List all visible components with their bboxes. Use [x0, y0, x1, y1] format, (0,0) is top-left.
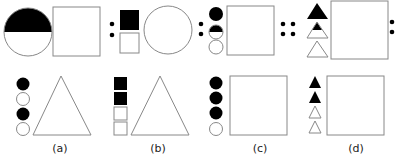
puzzle-figure: (a) (b) (c) (d)	[0, 0, 398, 156]
square-shape	[331, 1, 388, 59]
circle-shape	[144, 6, 192, 54]
half-filled-triangle-marker	[307, 22, 328, 38]
proportion-separator	[281, 22, 296, 37]
option-label-b: (b)	[143, 142, 173, 155]
half-filled-circle	[4, 8, 52, 56]
option-label-a: (a)	[45, 142, 75, 155]
option-d[interactable]	[309, 76, 384, 135]
ratio-separator	[110, 22, 115, 38]
square-shape	[53, 7, 100, 56]
black-square-marker	[120, 10, 139, 30]
white-square-marker	[120, 33, 139, 53]
white-circle-marker	[209, 40, 223, 54]
ratio-separator	[390, 20, 395, 35]
option-c[interactable]	[210, 76, 288, 136]
black-triangle-marker	[307, 3, 328, 19]
ratio-separator	[199, 22, 204, 37]
square-shape	[227, 6, 274, 55]
black-circle-marker	[209, 7, 223, 21]
white-triangle-marker	[307, 41, 328, 57]
option-b[interactable]	[114, 76, 189, 135]
half-filled-circle-marker	[209, 25, 223, 39]
option-label-d: (d)	[341, 142, 371, 155]
option-label-c: (c)	[245, 142, 275, 155]
option-a[interactable]	[17, 76, 92, 136]
